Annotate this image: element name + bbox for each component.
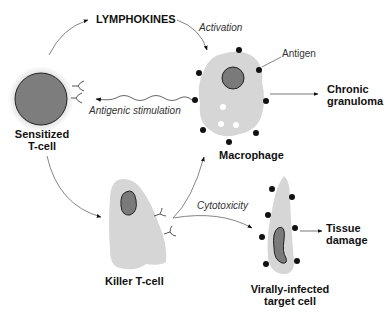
sensitized-tcell <box>8 66 84 132</box>
antigenic-stimulation-label: Antigenic stimulation <box>89 105 181 117</box>
target-cell <box>259 176 300 274</box>
tissue-damage-label: Tissue damage <box>326 222 368 246</box>
receptor-icon <box>164 226 176 236</box>
macrophage-nucleus <box>222 67 244 89</box>
target-cell-label: Virally-infected target cell <box>240 283 340 307</box>
antigen-pointer <box>262 57 281 67</box>
sensitized-tcell-label: Sensitized T-cell <box>12 128 72 152</box>
receptor-icon <box>154 208 166 216</box>
receptor-icon <box>72 81 84 91</box>
lymphokines-label: LYMPHOKINES <box>96 13 176 25</box>
antigen-label: Antigen <box>282 48 316 60</box>
macrophage <box>192 47 269 145</box>
killer-tcell-label: Killer T-cell <box>105 275 164 287</box>
killer-nucleus <box>121 191 137 215</box>
chronic-granuloma-label: Chronic granuloma <box>327 83 383 107</box>
macrophage-label: Macrophage <box>219 149 284 161</box>
activation-label: Activation <box>199 22 242 34</box>
arrow-cytotoxicity <box>173 216 252 228</box>
killer-tcell <box>109 179 176 269</box>
cytotoxicity-label: Cytotoxicity <box>197 200 248 212</box>
arrow-tcell-to-killer <box>47 156 101 217</box>
diagram-canvas <box>0 0 392 313</box>
arrow-tcell-to-lymphokines <box>49 20 88 55</box>
arrow-antigenic-stimulation <box>96 96 192 101</box>
